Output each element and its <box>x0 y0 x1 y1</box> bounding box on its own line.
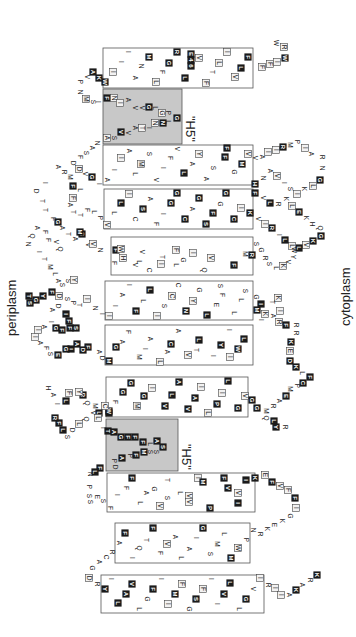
svg-text:V: V <box>235 491 242 496</box>
residue: F <box>124 433 131 440</box>
residue: G <box>253 294 260 299</box>
svg-text:G: G <box>223 191 229 196</box>
svg-text:K: K <box>96 76 102 81</box>
svg-text:G: G <box>196 196 202 201</box>
residue: Q <box>316 225 324 230</box>
svg-text:L: L <box>52 272 59 276</box>
svg-text:L: L <box>289 204 296 208</box>
residue: L <box>203 311 210 318</box>
svg-text:A: A <box>189 207 196 212</box>
residue: L <box>215 59 222 66</box>
svg-text:G: G <box>141 394 147 399</box>
residue: K <box>261 310 268 317</box>
svg-text:K: K <box>262 312 269 317</box>
residue: F <box>69 194 76 201</box>
residue: M <box>238 160 245 167</box>
residue: V <box>231 73 238 80</box>
svg-text:I: I <box>108 578 115 580</box>
residue: T <box>269 300 276 304</box>
residue: D <box>85 574 92 581</box>
svg-text:T: T <box>164 478 171 482</box>
svg-text:I: I <box>36 251 43 253</box>
svg-text:I: I <box>110 71 117 73</box>
svg-text:I: I <box>302 147 309 149</box>
svg-text:V: V <box>277 484 284 489</box>
svg-text:F: F <box>203 81 210 85</box>
svg-text:M: M <box>146 55 152 60</box>
svg-text:T: T <box>77 213 84 217</box>
residue: T <box>164 478 171 482</box>
svg-text:A: A <box>72 237 79 242</box>
svg-text:L: L <box>63 399 69 403</box>
residue: A <box>143 491 150 496</box>
svg-text:R: R <box>307 578 314 583</box>
svg-text:A: A <box>267 169 274 174</box>
residue: A <box>59 226 66 231</box>
svg-text:W: W <box>235 346 241 352</box>
svg-text:Q: Q <box>316 225 324 230</box>
residue: M <box>263 408 270 413</box>
svg-text:G: G <box>231 169 238 174</box>
svg-text:K: K <box>283 197 290 202</box>
residue: I <box>271 584 278 591</box>
residue: A <box>189 162 196 167</box>
svg-text:F: F <box>150 587 156 591</box>
svg-text:R: R <box>319 155 326 160</box>
svg-text:V: V <box>242 394 249 399</box>
svg-text:F: F <box>231 263 237 267</box>
svg-text:L: L <box>196 338 202 342</box>
residue: F <box>58 326 65 333</box>
residue: G <box>186 606 193 611</box>
svg-text:N: N <box>183 309 189 313</box>
residue: L <box>195 336 202 343</box>
residue: G <box>89 565 96 570</box>
svg-text:G: G <box>174 191 180 196</box>
svg-text:R: R <box>293 323 300 328</box>
residue: N <box>159 119 166 126</box>
svg-text:V: V <box>274 174 281 179</box>
residue: G <box>316 176 323 183</box>
residue: G <box>167 199 174 206</box>
svg-text:M: M <box>67 174 74 179</box>
svg-text:Q: Q <box>83 400 91 405</box>
residue: R <box>282 425 289 430</box>
residue: S <box>147 450 154 455</box>
residue: F <box>202 79 209 86</box>
svg-text:V: V <box>196 56 203 61</box>
residue: A <box>49 308 56 313</box>
svg-text:S: S <box>253 242 260 247</box>
svg-text:L: L <box>267 201 273 205</box>
residue: I <box>264 148 271 155</box>
svg-text:M: M <box>83 96 90 101</box>
svg-text:V: V <box>255 217 262 222</box>
svg-text:L: L <box>299 371 306 375</box>
svg-text:I: I <box>293 507 300 509</box>
svg-text:M: M <box>228 556 234 561</box>
svg-text:L: L <box>111 211 118 215</box>
svg-text:A: A <box>34 226 41 231</box>
residue: T <box>209 70 216 74</box>
svg-text:A: A <box>123 592 129 597</box>
svg-text:Y: Y <box>290 255 297 260</box>
svg-text:F: F <box>67 326 73 330</box>
svg-text:A: A <box>50 393 57 398</box>
svg-text:I: I <box>95 101 102 103</box>
residue: G <box>151 486 158 491</box>
svg-text:L: L <box>227 581 233 585</box>
residue: I <box>116 99 123 106</box>
svg-text:I: I <box>294 193 301 195</box>
residue: H <box>119 254 126 261</box>
residue: A <box>175 329 182 334</box>
residue: L <box>147 442 154 446</box>
svg-text:L: L <box>238 298 245 302</box>
residue: P <box>86 485 93 489</box>
svg-text:I: I <box>125 51 132 53</box>
residue: G <box>242 595 249 602</box>
residue: F <box>77 155 84 159</box>
residue: F <box>84 208 91 212</box>
residue: G <box>222 189 229 196</box>
residue: A <box>189 207 196 212</box>
svg-text:A: A <box>104 136 111 141</box>
svg-text:V: V <box>185 407 191 411</box>
svg-text:I: I <box>219 392 226 394</box>
